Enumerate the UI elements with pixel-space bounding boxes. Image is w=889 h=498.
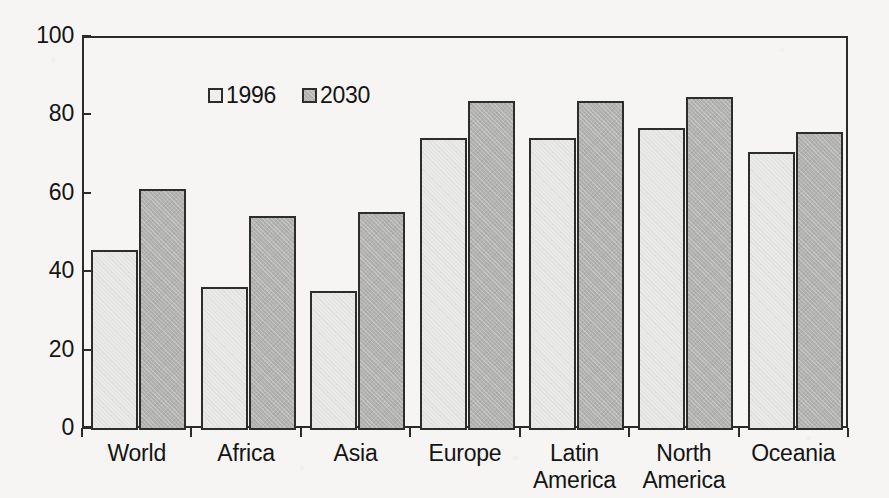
x-category-label-line1: Oceania — [751, 440, 835, 466]
bar-north-america-1996 — [638, 128, 685, 430]
x-category-label-latin-america: LatinAmerica — [520, 440, 629, 494]
x-tick-mark-0 — [81, 428, 83, 437]
x-tick-mark-3 — [409, 428, 411, 437]
x-category-label-world: World — [82, 440, 191, 467]
x-tick-mark-7 — [847, 428, 849, 437]
y-axis-tick-labels: 020406080100 — [22, 0, 74, 498]
x-category-label-europe: Europe — [410, 440, 519, 467]
x-tick-mark-5 — [628, 428, 630, 437]
legend-entry-2030: 2030 — [302, 84, 370, 107]
bar-chart-figure: 020406080100 19962030 WorldAfricaAsiaEur… — [0, 0, 889, 498]
bar-oceania-2030 — [796, 132, 843, 430]
x-tick-mark-2 — [300, 428, 302, 437]
y-tick-label-0: 0 — [28, 416, 74, 439]
x-tick-mark-1 — [190, 428, 192, 437]
x-category-label-line1: North — [656, 440, 711, 466]
plot-area: 19962030 — [82, 36, 848, 428]
bar-latin-america-1996 — [529, 138, 576, 430]
bar-world-1996 — [91, 250, 138, 430]
bar-oceania-1996 — [748, 152, 795, 430]
x-tick-mark-6 — [738, 428, 740, 437]
legend-swatch-icon-2030 — [302, 88, 317, 103]
x-tick-mark-4 — [519, 428, 521, 437]
y-tick-label-20: 20 — [28, 338, 74, 361]
x-category-label-line2: America — [629, 467, 738, 494]
y-tick-label-80: 80 — [28, 102, 74, 125]
bar-asia-2030 — [358, 212, 405, 430]
x-category-label-line1: World — [107, 440, 166, 466]
bar-europe-2030 — [468, 101, 515, 430]
x-category-label-oceania: Oceania — [739, 440, 848, 467]
bar-latin-america-2030 — [577, 101, 624, 430]
bar-africa-2030 — [249, 216, 296, 430]
y-tick-label-100: 100 — [28, 24, 74, 47]
chart-legend: 19962030 — [208, 84, 370, 107]
x-category-label-line2: America — [520, 467, 629, 494]
x-category-label-line1: Asia — [334, 440, 378, 466]
bar-north-america-2030 — [686, 97, 733, 430]
legend-label: 2030 — [320, 84, 370, 107]
bar-africa-1996 — [201, 287, 248, 430]
legend-swatch-icon-1996 — [208, 88, 223, 103]
x-category-label-africa: Africa — [191, 440, 300, 467]
x-category-label-line1: Europe — [429, 440, 502, 466]
x-category-label-north-america: NorthAmerica — [629, 440, 738, 494]
x-category-label-line1: Africa — [217, 440, 275, 466]
bar-asia-1996 — [310, 291, 357, 430]
x-category-label-line1: Latin — [550, 440, 599, 466]
legend-entry-1996: 1996 — [208, 84, 276, 107]
y-tick-label-60: 60 — [28, 181, 74, 204]
bar-world-2030 — [139, 189, 186, 430]
x-category-label-asia: Asia — [301, 440, 410, 467]
y-tick-label-40: 40 — [28, 259, 74, 282]
legend-label: 1996 — [226, 84, 276, 107]
bar-europe-1996 — [420, 138, 467, 430]
